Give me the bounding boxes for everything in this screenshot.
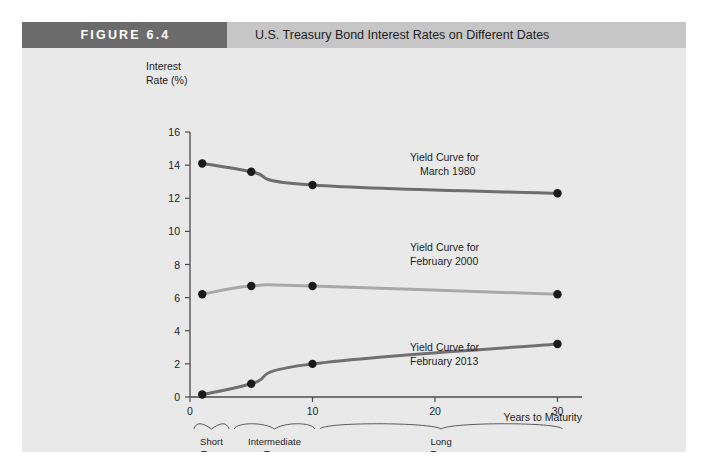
bracket-label-line2: Term [201, 448, 222, 452]
data-point [198, 290, 206, 298]
data-point [247, 168, 255, 176]
y-tick-label: 4 [174, 325, 180, 337]
y-tick-label: 10 [168, 225, 180, 237]
figure-header: FIGURE 6.4 U.S. Treasury Bond Interest R… [22, 22, 686, 48]
data-point [553, 340, 561, 348]
series-1 [198, 282, 562, 299]
annotation-2013-line1: Yield Curve for [410, 341, 480, 353]
bracket-curve [320, 424, 563, 429]
x-tick-label: 20 [429, 405, 441, 417]
bracket-label-line1: Short [200, 436, 223, 447]
annotation-2000-line2: February 2000 [410, 255, 478, 267]
y-tick-label: 6 [174, 292, 180, 304]
series-layer [198, 159, 562, 398]
y-tick-label: 2 [174, 358, 180, 370]
bracket-curve [234, 424, 315, 429]
data-point [308, 181, 316, 189]
data-point [198, 159, 206, 167]
y-tick-label: 0 [174, 391, 180, 403]
bracket-label-line1: Long [431, 436, 452, 447]
data-point [198, 390, 206, 398]
x-axis-label: Years to Maturity [504, 411, 583, 423]
annotation-2013-line2: February 2013 [410, 355, 478, 367]
data-point [308, 282, 316, 290]
y-tick-label: 16 [168, 126, 180, 138]
maturity-brackets: ShortTermIntermediateTermLongTerm [194, 424, 563, 452]
figure-number-badge: FIGURE 6.4 [22, 22, 227, 48]
data-point [247, 282, 255, 290]
data-point [553, 189, 561, 197]
y-tick-label: 8 [174, 259, 180, 271]
bracket-curve [194, 424, 230, 429]
figure-panel: FIGURE 6.4 U.S. Treasury Bond Interest R… [22, 22, 686, 452]
series-line [202, 344, 557, 395]
series-line [202, 285, 557, 295]
bracket-label-line1: Intermediate [248, 436, 301, 447]
x-tick-label: 10 [307, 405, 319, 417]
data-point [247, 380, 255, 388]
figure-title: U.S. Treasury Bond Interest Rates on Dif… [227, 22, 686, 48]
yield-curve-chart: Interest Rate (%) 0246810121416 0102030 … [22, 48, 686, 452]
bracket-label-line2: Term [264, 448, 285, 452]
y-tick-label: 14 [168, 159, 180, 171]
data-point [553, 290, 561, 298]
series-0 [198, 159, 562, 197]
x-tick-label: 0 [187, 405, 193, 417]
annotation-2000-line1: Yield Curve for [410, 241, 480, 253]
data-point [308, 360, 316, 368]
chart-plot-area: Interest Rate (%) 0246810121416 0102030 … [22, 48, 686, 452]
bracket-label-line2: Term [431, 448, 452, 452]
series-line [202, 163, 557, 193]
y-axis-label-line1: Interest [146, 60, 181, 72]
annotation-1980-line2: March 1980 [420, 165, 476, 177]
annotation-1980-line1: Yield Curve for [410, 151, 480, 163]
series-2 [198, 340, 562, 399]
y-tick-label: 12 [168, 192, 180, 204]
y-axis-label-line2: Rate (%) [146, 74, 187, 86]
y-axis-ticks: 0246810121416 [168, 126, 190, 403]
